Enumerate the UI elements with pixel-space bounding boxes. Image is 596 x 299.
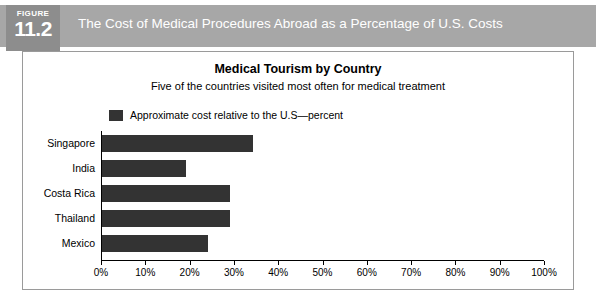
x-tick-mark bbox=[411, 261, 412, 265]
bar bbox=[102, 185, 230, 202]
figure-caption-title: The Cost of Medical Procedures Abroad as… bbox=[78, 16, 503, 31]
x-tick-mark bbox=[500, 261, 501, 265]
x-tick-mark bbox=[278, 261, 279, 265]
chart-title: Medical Tourism by Country bbox=[23, 62, 573, 76]
x-tick-label: 10% bbox=[135, 267, 155, 278]
figure-number-badge: FIGURE 11.2 bbox=[6, 5, 60, 51]
x-tick-mark bbox=[323, 261, 324, 265]
x-tick-mark bbox=[101, 261, 102, 265]
x-tick-mark bbox=[234, 261, 235, 265]
legend-label: Approximate cost relative to the U.S—per… bbox=[130, 109, 343, 121]
x-tick-label: 20% bbox=[180, 267, 200, 278]
bar-row: Mexico bbox=[102, 235, 208, 252]
x-tick-label: 0% bbox=[94, 267, 108, 278]
x-tick-label: 80% bbox=[445, 267, 465, 278]
x-tick-label: 60% bbox=[357, 267, 377, 278]
bar-row: Costa Rica bbox=[102, 185, 230, 202]
x-tick-mark bbox=[455, 261, 456, 265]
legend-swatch-icon bbox=[109, 110, 123, 121]
bar bbox=[102, 210, 230, 227]
bar-row: Singapore bbox=[102, 135, 253, 152]
x-tick-mark bbox=[544, 261, 545, 265]
x-tick-mark bbox=[367, 261, 368, 265]
x-tick-label: 30% bbox=[224, 267, 244, 278]
plot-area: SingaporeIndiaCosta RicaThailandMexico 0… bbox=[101, 131, 544, 260]
x-tick-label: 70% bbox=[401, 267, 421, 278]
category-label: Mexico bbox=[62, 237, 95, 249]
figure-header-banner: FIGURE 11.2 The Cost of Medical Procedur… bbox=[0, 5, 596, 47]
x-tick-label: 100% bbox=[531, 267, 557, 278]
chart-legend: Approximate cost relative to the U.S—per… bbox=[109, 109, 343, 121]
bar-row: Thailand bbox=[102, 210, 230, 227]
chart-panel: Medical Tourism by Country Five of the c… bbox=[22, 51, 574, 290]
x-tick-label: 50% bbox=[312, 267, 332, 278]
category-label: Singapore bbox=[47, 137, 95, 149]
bar bbox=[102, 160, 186, 177]
x-tick-label: 90% bbox=[490, 267, 510, 278]
category-label: India bbox=[72, 162, 95, 174]
x-tick-mark bbox=[190, 261, 191, 265]
bar bbox=[102, 235, 208, 252]
chart-subtitle: Five of the countries visited most often… bbox=[23, 80, 573, 92]
category-label: Thailand bbox=[55, 212, 95, 224]
x-tick-label: 40% bbox=[268, 267, 288, 278]
figure-number-label: 11.2 bbox=[6, 18, 60, 40]
x-tick-mark bbox=[145, 261, 146, 265]
category-label: Costa Rica bbox=[44, 187, 95, 199]
bar-row: India bbox=[102, 160, 186, 177]
bar bbox=[102, 135, 253, 152]
